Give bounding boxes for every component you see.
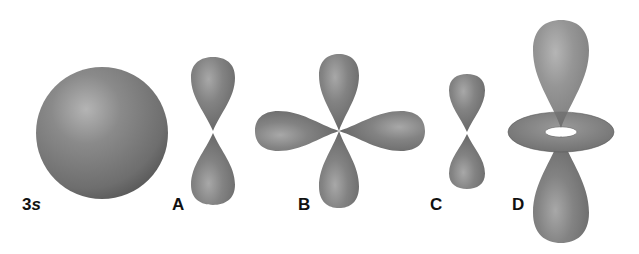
label-c: C [430, 196, 442, 213]
orbital-a-dumbbell [191, 57, 235, 205]
orbital-3s-sphere [36, 67, 168, 199]
orbital-diagram: 3s A B C D [0, 0, 639, 254]
orbital-c-dumbbell [449, 74, 485, 189]
orbital-b-clover [255, 54, 425, 208]
label-b: B [298, 196, 310, 213]
label-d: D [512, 196, 524, 213]
label-3s-subshell: s [31, 195, 40, 214]
label-a: A [172, 196, 184, 213]
label-3s: 3s [22, 196, 41, 213]
orbital-shapes [0, 0, 639, 254]
